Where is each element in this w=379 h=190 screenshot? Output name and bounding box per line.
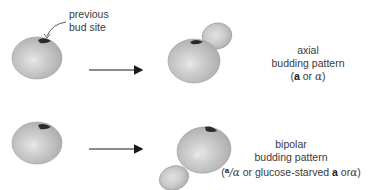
- axial-subtitle: budding pattern: [250, 57, 366, 70]
- bipolar-condition: (a/α or glucose-starved a orα): [205, 164, 377, 179]
- bud-scar-icon: [205, 127, 217, 133]
- axial-title: axial: [250, 44, 366, 57]
- axial-budding-cell: [168, 20, 235, 83]
- bipolar-title: bipolar: [205, 138, 377, 151]
- bipolar-label: bipolar budding pattern (a/α or glucose-…: [205, 138, 377, 179]
- bipolar-subtitle: budding pattern: [205, 151, 377, 164]
- mother-cell-axial: [12, 37, 62, 79]
- axial-condition: (a or α): [250, 70, 366, 83]
- previous-bud-site-label: previous bud site: [69, 8, 109, 34]
- axial-label: axial budding pattern (a or α): [250, 44, 366, 83]
- mother-cell-bipolar: [12, 122, 62, 164]
